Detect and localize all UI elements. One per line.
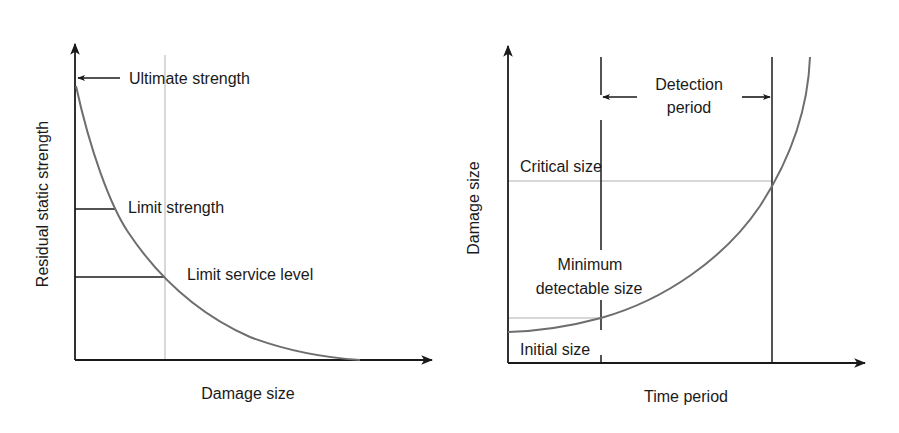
detection-period-label-line2: period (667, 99, 711, 116)
residual-strength-diagram: Ultimate strength Limit strength Limit s… (34, 44, 432, 402)
right-y-axis-label: Damage size (465, 161, 482, 254)
diagram-canvas: Ultimate strength Limit strength Limit s… (0, 0, 899, 433)
left-y-axis-label: Residual static strength (34, 121, 51, 287)
limit-service-label: Limit service level (187, 266, 313, 283)
right-x-axis-label: Time period (644, 388, 728, 405)
initial-size-label: Initial size (520, 341, 590, 358)
critical-size-label: Critical size (520, 158, 602, 175)
detection-period-label-line1: Detection (655, 76, 723, 93)
strength-decay-curve (76, 86, 360, 360)
limit-strength-label: Limit strength (128, 199, 224, 216)
min-detectable-label-line1: Minimum (558, 256, 623, 273)
left-x-axis-label: Damage size (201, 385, 294, 402)
min-detectable-label-line2: detectable size (536, 280, 643, 297)
damage-growth-diagram: Detection period Critical size Minimum d… (465, 46, 865, 405)
ultimate-strength-label: Ultimate strength (129, 70, 250, 87)
